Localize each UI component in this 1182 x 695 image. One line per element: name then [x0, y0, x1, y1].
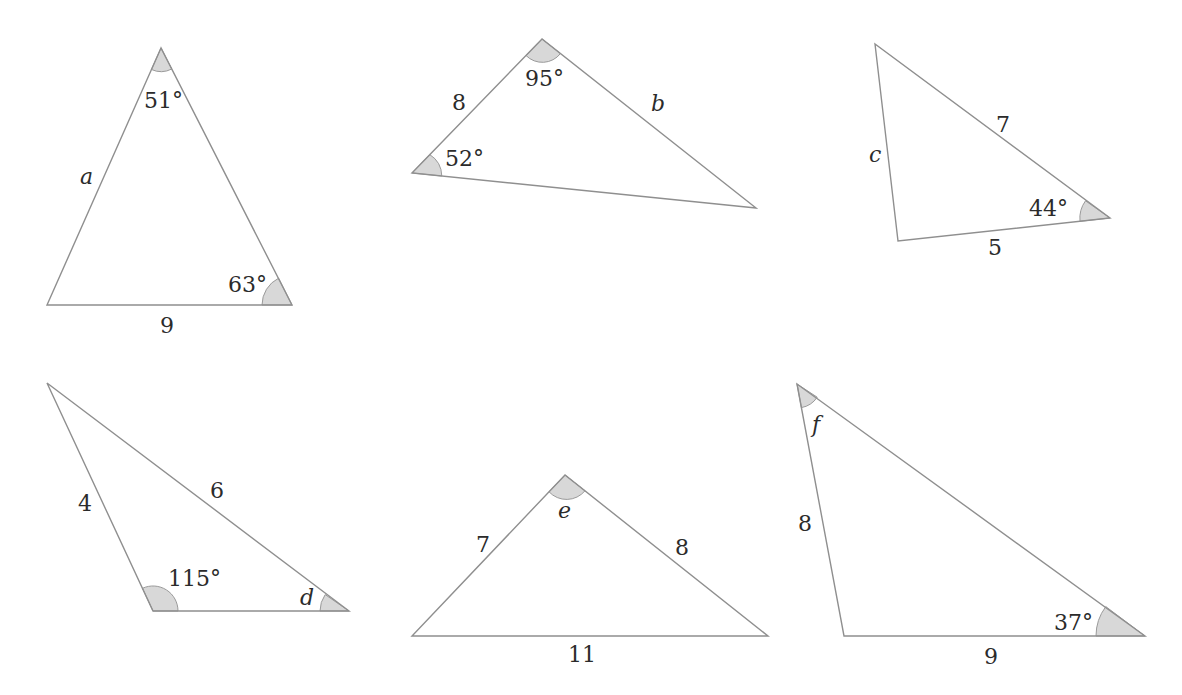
angle-label-44: 44°: [1029, 196, 1068, 221]
angle-marker-37: [1096, 607, 1145, 636]
triangle-4: 4 6 115° d: [47, 383, 349, 611]
side-label-9-t6: 9: [984, 644, 998, 669]
angle-label-f: f: [810, 412, 824, 437]
triangle-5: e 7 8 11: [412, 475, 768, 667]
side-label-8-t6: 8: [798, 511, 812, 536]
triangles-figure: 51° 63° a 9 95° 52° 8 b c 7 44° 5 4 6 11…: [0, 0, 1182, 695]
triangle-2: 95° 52° 8 b: [412, 39, 756, 208]
triangle-3-outline: [875, 44, 1110, 241]
angle-label-e: e: [558, 498, 571, 523]
side-label-5: 5: [988, 235, 1002, 260]
angle-label-d: d: [300, 585, 314, 610]
side-label-9: 9: [160, 313, 174, 338]
side-label-8: 8: [452, 90, 466, 115]
angle-label-115: 115°: [168, 566, 221, 591]
side-label-b: b: [651, 91, 665, 116]
angle-label-95: 95°: [525, 66, 564, 91]
side-label-c: c: [869, 142, 881, 167]
angle-marker-51: [151, 48, 171, 72]
angle-label-51: 51°: [144, 88, 183, 113]
triangle-6-outline: [797, 384, 1145, 636]
triangle-3: c 7 44° 5: [869, 44, 1110, 260]
side-label-6: 6: [210, 478, 224, 503]
side-label-8-t5: 8: [675, 535, 689, 560]
side-label-4: 4: [78, 491, 92, 516]
side-label-a: a: [80, 164, 93, 189]
triangle-2-outline: [412, 39, 756, 208]
triangle-6: f 8 37° 9: [797, 384, 1145, 669]
triangle-1: 51° 63° a 9: [47, 48, 292, 338]
side-label-7: 7: [996, 112, 1010, 137]
angle-label-52: 52°: [445, 146, 484, 171]
angle-label-37: 37°: [1054, 610, 1093, 635]
side-label-11: 11: [568, 642, 596, 667]
angle-label-63: 63°: [228, 272, 267, 297]
side-label-7-t5: 7: [476, 532, 490, 557]
triangle-5-outline: [412, 475, 768, 636]
